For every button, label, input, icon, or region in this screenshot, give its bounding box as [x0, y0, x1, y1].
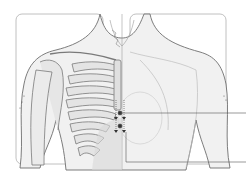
torso-illustration: [0, 0, 246, 188]
anatomy-figure: [0, 0, 246, 188]
sternum: [114, 60, 121, 110]
